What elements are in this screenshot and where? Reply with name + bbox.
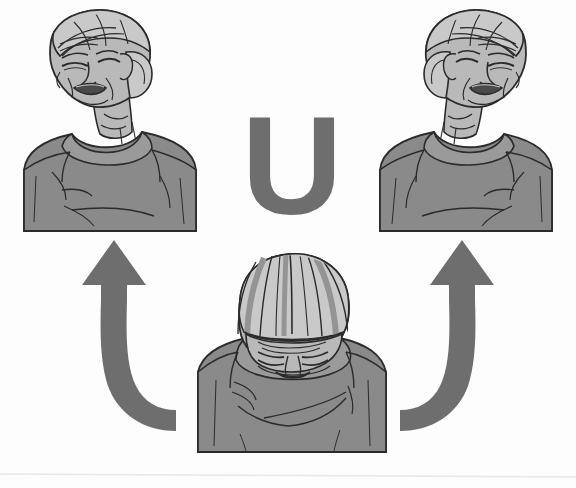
figure-bottom-center bbox=[198, 254, 386, 452]
figure-top-left bbox=[24, 10, 196, 231]
curved-arrow-left bbox=[82, 240, 176, 431]
illustration-canvas: Neck stretch exercise sequence Line-draw… bbox=[0, 0, 576, 488]
scan-line bbox=[0, 474, 576, 477]
u-letter-overlay: U bbox=[243, 108, 339, 224]
curved-arrow-right bbox=[400, 240, 494, 431]
illustration-artwork bbox=[0, 0, 576, 488]
figure-top-right bbox=[380, 10, 552, 231]
